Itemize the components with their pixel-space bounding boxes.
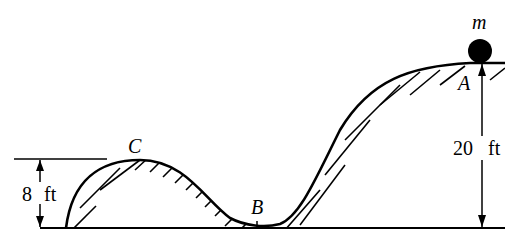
arrowhead-icon — [36, 216, 44, 227]
label-8: 8 — [22, 183, 32, 205]
label-mass: m — [472, 11, 486, 33]
label-point-b: B — [251, 196, 263, 218]
arrowhead-icon — [478, 215, 486, 227]
arrowhead-icon — [36, 160, 44, 171]
label-8-unit: ft — [44, 183, 57, 205]
track-diagram: 8 ft 20 ft m A B C — [0, 0, 526, 241]
label-point-c: C — [128, 135, 142, 157]
mass-ball — [468, 39, 492, 63]
label-point-a: A — [456, 72, 471, 94]
label-20-unit: ft — [488, 137, 501, 159]
arrowhead-icon — [478, 64, 486, 76]
label-20: 20 — [453, 137, 473, 159]
